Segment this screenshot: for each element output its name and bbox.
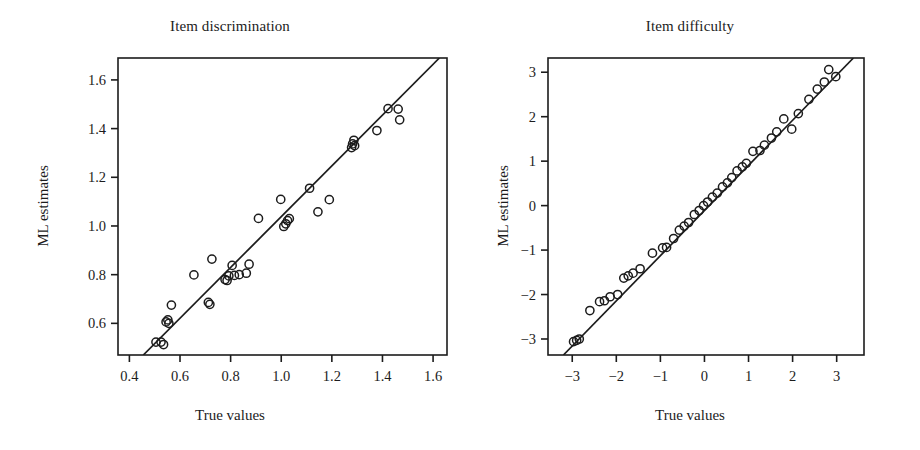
scatter-point bbox=[614, 290, 622, 298]
scatter-point bbox=[373, 126, 381, 134]
scatter-point bbox=[245, 260, 253, 268]
scatter-point bbox=[636, 265, 644, 273]
y-axis-tick-label: 1.4 bbox=[88, 121, 107, 137]
scatter-point bbox=[825, 65, 833, 73]
scatter-point bbox=[813, 85, 821, 93]
y-axis-tick-label: 0 bbox=[529, 198, 536, 214]
reference-line bbox=[143, 58, 439, 355]
scatter-point bbox=[773, 128, 781, 136]
x-axis-tick-label: 0.4 bbox=[120, 368, 139, 384]
y-axis-tick-label: 1.2 bbox=[88, 169, 106, 185]
x-axis-tick-label: 3 bbox=[833, 368, 840, 384]
x-axis-tick-label: 1.4 bbox=[373, 368, 392, 384]
x-axis-tick-label: 1.0 bbox=[272, 368, 290, 384]
x-axis-tick-label: −3 bbox=[565, 368, 580, 384]
scatter-point bbox=[167, 301, 175, 309]
plot-area-right: −3−2−10123−3−2−10123 bbox=[460, 0, 920, 450]
x-axis-tick-label: 0 bbox=[701, 368, 708, 384]
scatter-point bbox=[805, 95, 813, 103]
y-axis-tick-label: 1.0 bbox=[88, 218, 106, 234]
plot-area-left: 0.40.60.81.01.21.41.60.60.81.01.21.41.6 bbox=[0, 0, 460, 450]
x-axis-tick-label: 1 bbox=[745, 368, 752, 384]
scatter-point bbox=[648, 249, 656, 257]
scatter-point bbox=[600, 297, 608, 305]
y-axis-tick-label: 0.8 bbox=[88, 267, 106, 283]
x-axis-tick-label: 1.6 bbox=[424, 368, 442, 384]
scatter-point bbox=[208, 255, 216, 263]
x-axis-tick-label: 1.2 bbox=[323, 368, 341, 384]
scatter-point bbox=[394, 105, 402, 113]
scatter-point bbox=[254, 214, 262, 222]
panel-item-discrimination: Item discrimination ML estimates True va… bbox=[0, 0, 460, 450]
scatter-point bbox=[325, 196, 333, 204]
x-axis-tick-label: −1 bbox=[653, 368, 668, 384]
y-axis-tick-label: −3 bbox=[521, 331, 536, 347]
scatter-point bbox=[190, 271, 198, 279]
panel-item-difficulty: Item difficulty ML estimates True values… bbox=[460, 0, 920, 450]
y-axis-tick-label: −1 bbox=[521, 242, 536, 258]
y-axis-tick-label: −2 bbox=[521, 287, 536, 303]
scatter-point bbox=[396, 116, 404, 124]
y-axis-tick-label: 3 bbox=[529, 64, 536, 80]
scatter-point bbox=[788, 125, 796, 133]
data-layer bbox=[563, 58, 853, 355]
scatter-point bbox=[820, 78, 828, 86]
data-layer bbox=[143, 58, 439, 355]
y-axis-tick-label: 0.6 bbox=[88, 315, 106, 331]
x-axis-tick-label: 0.8 bbox=[222, 368, 240, 384]
y-axis-tick-label: 1.6 bbox=[88, 72, 106, 88]
x-axis-tick-label: 2 bbox=[789, 368, 796, 384]
scatter-point bbox=[586, 306, 594, 314]
scatter-point bbox=[314, 208, 322, 216]
figure-root: Item discrimination ML estimates True va… bbox=[0, 0, 920, 450]
y-axis-tick-label: 2 bbox=[529, 109, 536, 125]
x-axis-tick-label: 0.6 bbox=[171, 368, 189, 384]
y-axis-tick-label: 1 bbox=[529, 153, 536, 169]
plot-frame bbox=[118, 58, 447, 355]
x-axis-tick-label: −2 bbox=[609, 368, 624, 384]
scatter-point bbox=[780, 115, 788, 123]
scatter-point bbox=[277, 195, 285, 203]
